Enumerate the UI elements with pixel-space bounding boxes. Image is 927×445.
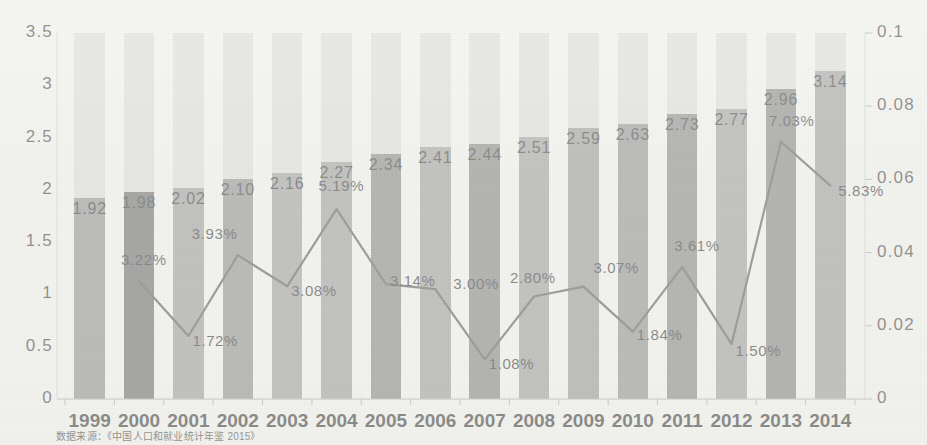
line-point-label: 5.19% (319, 177, 365, 194)
line-point-label: 1.84% (637, 326, 683, 343)
line-point-label: 3.14% (390, 272, 436, 289)
line-point-label: 3.93% (192, 225, 238, 242)
chart-frame: 00.511.522.533.500.020.040.060.080.11.92… (0, 0, 927, 445)
chart-footnote: 数据来源：《中国人口和就业统计年鉴 2015》 (56, 428, 261, 443)
line-point-label: 1.50% (736, 342, 782, 359)
line-point-label: 3.22% (121, 251, 167, 268)
line-point-label: 3.61% (674, 237, 720, 254)
chart-plot-area: 00.511.522.533.500.020.040.060.080.11.92… (0, 0, 927, 445)
chart-vector-layer (0, 0, 927, 445)
line-point-label: 1.72% (192, 332, 238, 349)
line-point-label: 3.00% (453, 275, 499, 292)
line-point-label: 5.83% (838, 182, 884, 199)
line-point-label: 7.03% (769, 112, 815, 129)
line-point-label: 3.08% (291, 282, 337, 299)
line-series-path[interactable] (139, 142, 830, 360)
line-point-label: 1.08% (489, 355, 535, 372)
line-point-label: 2.80% (510, 269, 556, 286)
line-point-label: 3.07% (593, 259, 639, 276)
